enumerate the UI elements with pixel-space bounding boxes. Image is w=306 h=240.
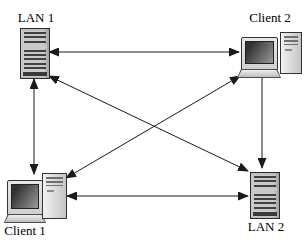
drive-bays-icon — [46, 177, 63, 186]
server-base-panel — [23, 72, 47, 76]
screen-icon — [11, 184, 39, 209]
node-label-lan1: LAN 1 — [16, 11, 56, 25]
tower-icon-client1 — [42, 173, 67, 219]
server-panel-gap — [23, 45, 47, 48]
server-base-panel — [253, 212, 277, 216]
server-vents-icon — [24, 32, 46, 70]
tower-icon-client2 — [280, 32, 302, 74]
monitor-icon-client1 — [7, 180, 43, 216]
edge-client1-client2 — [66, 76, 240, 178]
node-label-client1: Client 1 — [0, 224, 50, 238]
power-button-icon — [285, 49, 292, 51]
server-icon-lan2 — [250, 172, 280, 219]
keyboard-icon-client2 — [237, 69, 281, 78]
drive-bays-icon — [284, 36, 298, 45]
edge-lan1-lan2 — [49, 76, 248, 171]
screen-icon — [245, 41, 274, 64]
node-label-lan2: LAN 2 — [246, 220, 286, 234]
node-label-client2: Client 2 — [242, 11, 298, 25]
server-vents-icon — [254, 176, 276, 210]
server-icon-lan1 — [20, 28, 50, 79]
keyboard-top-surface — [5, 215, 45, 222]
monitor-icon-client2 — [241, 37, 278, 71]
keyboard-top-surface — [238, 70, 280, 77]
keyboard-icon-client1 — [4, 214, 46, 223]
server-panel-gap — [253, 188, 277, 191]
power-button-icon — [47, 190, 54, 192]
network-diagram: LAN 1 Client 2 Client 1 LAN 2 — [0, 0, 306, 240]
